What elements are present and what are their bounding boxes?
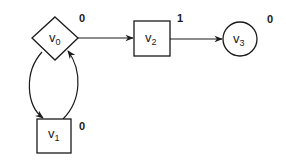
edge-v0-v1: [29, 52, 43, 118]
node-v0: v0 0: [32, 12, 85, 60]
graph-diagram: v0 0 v1 0 v2 1 v3 0: [0, 0, 286, 164]
node-v2: v2 1: [134, 12, 183, 56]
edge-v1-v0: [63, 51, 78, 119]
node-v0-weight: 0: [79, 12, 85, 24]
node-v3: v3 0: [223, 13, 273, 56]
node-v1: v1 0: [37, 119, 85, 153]
node-v2-weight: 1: [177, 12, 183, 24]
node-v1-weight: 0: [79, 120, 85, 132]
node-v3-weight: 0: [267, 13, 273, 25]
